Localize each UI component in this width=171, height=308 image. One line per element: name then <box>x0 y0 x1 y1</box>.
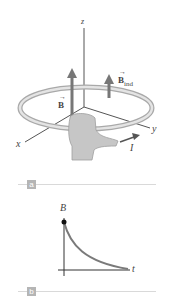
x-axis-label: x <box>16 138 20 149</box>
panel-label-a: a <box>27 180 36 189</box>
x-axis-label: t <box>132 263 135 274</box>
start-point <box>62 220 67 225</box>
figure-b: B t <box>0 200 171 290</box>
loop-diagram <box>0 0 171 180</box>
y-axis-label: B <box>60 202 66 213</box>
y-axis-label: y <box>152 123 156 134</box>
decay-chart <box>0 200 171 290</box>
vector-arrow-icon: → <box>59 93 66 101</box>
figure-a: z x y → B → Bind I <box>0 0 171 180</box>
z-axis-label: z <box>81 17 84 26</box>
divider-a <box>36 184 156 185</box>
divider-b-left <box>18 291 27 292</box>
current-label: I <box>130 142 133 153</box>
panel-label-b: b <box>27 287 36 296</box>
vector-arrow-icon: → <box>119 68 126 76</box>
b-ind-vector-label: → Bind <box>118 75 133 88</box>
divider-a-left <box>18 184 27 185</box>
b-vector-label: → B <box>58 100 64 110</box>
divider-b <box>36 291 156 292</box>
